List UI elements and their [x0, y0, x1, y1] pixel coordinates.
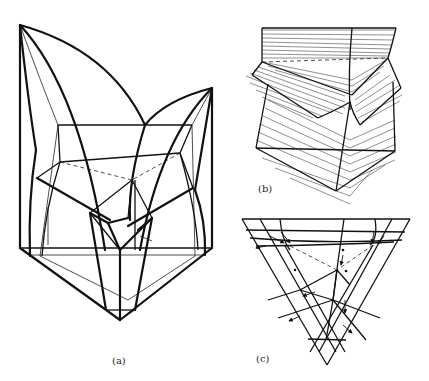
line-a1-f — [40, 125, 58, 256]
line-p2-p — [108, 218, 128, 223]
line-b-left-down-f — [256, 84, 268, 148]
line-b-a2-p2 — [252, 75, 318, 118]
region-III-dot — [294, 269, 297, 272]
line-c-alpha-beta — [246, 230, 405, 232]
hatch-right-wedge — [355, 75, 402, 122]
arrow-p2 — [289, 316, 300, 321]
ternary-phase-diagram-figure: (a) — [0, 0, 429, 381]
line-c-b1p-diag — [319, 219, 392, 352]
region-II-dot — [345, 270, 348, 273]
dash-a-c — [60, 162, 132, 180]
arrow-p3 — [343, 325, 352, 333]
line-c2-c2p — [90, 213, 106, 310]
curve-b-e1-p — [349, 28, 352, 110]
line-c-c-p — [333, 270, 337, 300]
arrow-e1 — [341, 255, 343, 265]
line-c-a-diag — [285, 246, 345, 352]
curve-b-b1p — [180, 153, 198, 250]
line-b-b2-p3 — [360, 88, 401, 125]
dash-b-a-b — [262, 58, 388, 62]
line-b-f-g — [256, 148, 395, 151]
line-a1-a — [58, 125, 60, 162]
line-c-c-c3 — [337, 270, 350, 285]
hatch-lower-region — [256, 100, 396, 204]
line-b-p-h — [336, 102, 350, 191]
base-BC — [120, 248, 212, 320]
line-c3p-C — [120, 310, 135, 320]
panel-b-tie-line-surfaces: (b) — [0, 0, 402, 204]
line-b-p3-p — [350, 102, 360, 125]
curve-e1-p — [130, 125, 145, 220]
line-c-c-c2 — [300, 270, 337, 290]
dash-b-c — [132, 153, 180, 180]
line-b-b1-b — [388, 28, 396, 58]
line-b-right-down-g — [393, 82, 395, 151]
curve-b2-b2p — [195, 190, 205, 255]
panel-a-3d-diagram: (a) — [0, 0, 212, 366]
line-c2p-C — [106, 310, 120, 320]
line-c-c2p-c3p — [308, 339, 346, 340]
caption-c: (c) — [256, 353, 270, 364]
line-b2-p — [128, 188, 193, 226]
line-c-a1p-diag — [260, 219, 336, 352]
line-b-a2-a — [252, 62, 262, 75]
region-I-dot — [342, 249, 345, 252]
line-c2-c — [90, 180, 132, 213]
hatch-top-region — [262, 30, 395, 92]
caption-b: (b) — [258, 183, 272, 194]
line-b-p2-p — [318, 102, 350, 118]
caption-a: (a) — [112, 355, 126, 366]
line-a-b — [60, 153, 180, 162]
curve-TA-a2 — [20, 25, 36, 150]
curve-a2-a2p — [30, 150, 36, 256]
line-g-h — [128, 256, 195, 300]
